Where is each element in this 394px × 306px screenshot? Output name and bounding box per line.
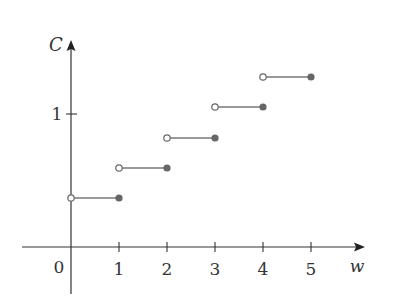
closed-dot-icon	[307, 73, 314, 80]
step-segment-4	[212, 103, 267, 110]
closed-dot-icon	[163, 164, 170, 171]
step-segment-3	[164, 134, 219, 141]
x-axis-label: w	[350, 256, 365, 276]
open-dot-icon	[116, 165, 122, 171]
closed-dot-icon	[115, 194, 122, 201]
x-tick-label-3: 3	[210, 259, 221, 279]
origin-label: 0	[54, 257, 65, 277]
open-dot-icon	[260, 74, 266, 80]
x-tick-label-4: 4	[258, 259, 269, 279]
open-dot-icon	[164, 135, 170, 141]
step-function-chart: 0 1 2 3 4 5 1 C w	[0, 0, 394, 306]
step-segments	[68, 73, 315, 201]
x-tick-label-2: 2	[162, 259, 173, 279]
y-axis-label: C	[49, 34, 63, 55]
x-tick-label-1: 1	[114, 259, 125, 279]
closed-dot-icon	[211, 134, 218, 141]
x-tick-label-5: 5	[306, 259, 317, 279]
step-segment-5	[260, 73, 315, 80]
step-segment-2	[116, 164, 171, 171]
y-tick-label-1: 1	[52, 104, 63, 124]
open-dot-icon	[68, 195, 74, 201]
open-dot-icon	[212, 104, 218, 110]
closed-dot-icon	[259, 103, 266, 110]
step-segment-1	[68, 194, 123, 201]
